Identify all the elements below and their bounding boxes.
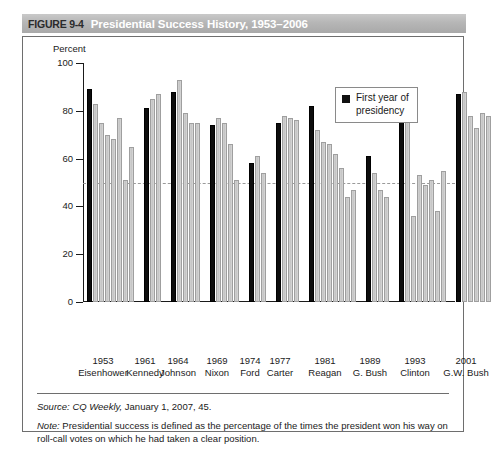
- bar: [156, 94, 161, 302]
- bar: [378, 190, 383, 302]
- y-axis-tick: [76, 254, 83, 255]
- bar-first-year: [249, 163, 254, 302]
- bar: [474, 128, 479, 302]
- note-text: Presidential success is defined as the p…: [37, 420, 448, 444]
- bar: [189, 123, 194, 302]
- source-line: Source: CQ Weekly, January 1, 2007, 45.: [37, 400, 451, 413]
- bar: [129, 147, 134, 302]
- bar: [441, 171, 446, 302]
- bar: [321, 142, 326, 302]
- bar-first-year: [456, 94, 461, 302]
- x-axis-labels: 1953Eisenhower1961Kennedy1964Johnson1969…: [31, 355, 457, 387]
- y-axis-tick-label: 20: [33, 249, 73, 259]
- bar: [405, 96, 410, 302]
- bar: [294, 120, 299, 302]
- bar: [222, 123, 227, 302]
- y-axis-title: Percent: [53, 43, 86, 54]
- figure-container: FIGURE 9-4 Presidential Success History,…: [22, 14, 466, 434]
- bar: [183, 113, 188, 302]
- figure-panel: Percent 020406080100 First year of presi…: [22, 36, 464, 432]
- bar: [384, 197, 389, 302]
- x-axis-group-label: 2001G.W. Bush: [426, 355, 491, 379]
- y-axis-tick: [76, 206, 83, 207]
- y-axis-tick: [76, 302, 83, 303]
- y-axis-tick-label: 80: [33, 106, 73, 116]
- source-publication: CQ Weekly,: [72, 401, 122, 412]
- bar: [228, 144, 233, 302]
- footer-divider: [37, 393, 449, 394]
- figure-title: Presidential Success History, 1953–2006: [91, 18, 308, 30]
- figure-number: FIGURE 9-4: [28, 18, 84, 30]
- bar: [315, 130, 320, 302]
- x-axis-president: G.W. Bush: [426, 367, 491, 379]
- bar: [216, 118, 221, 302]
- figure-header-band: FIGURE 9-4 Presidential Success History,…: [22, 14, 466, 33]
- bar: [282, 116, 287, 302]
- bar: [411, 216, 416, 302]
- bar: [99, 123, 104, 302]
- bar-first-year: [366, 156, 371, 302]
- x-axis-year: 2001: [426, 355, 491, 367]
- bar: [423, 185, 428, 302]
- bar-group: [249, 63, 267, 302]
- bar: [234, 180, 239, 302]
- bar: [417, 175, 422, 302]
- bar: [345, 197, 350, 302]
- bar-first-year: [276, 123, 281, 302]
- note-line: Note: Presidential success is defined as…: [37, 419, 451, 445]
- bar: [327, 144, 332, 302]
- bar-group: [144, 63, 162, 302]
- y-axis-tick-label: 60: [33, 154, 73, 164]
- source-details: January 1, 2007, 45.: [122, 401, 211, 412]
- bar: [372, 173, 377, 302]
- chart-legend: First year of presidency: [335, 87, 418, 123]
- note-label: Note:: [37, 420, 60, 431]
- bar: [288, 118, 293, 302]
- y-axis-tick-label: 40: [33, 201, 73, 211]
- bar: [333, 154, 338, 302]
- bar-first-year: [87, 89, 92, 302]
- bar: [117, 118, 122, 302]
- y-axis-tick-label: 100: [33, 58, 73, 68]
- bar-group: [210, 63, 240, 302]
- bar: [123, 180, 128, 302]
- bar-group: [171, 63, 201, 302]
- source-label: Source:: [37, 401, 70, 412]
- chart-plot-area: Percent 020406080100 First year of presi…: [31, 43, 457, 353]
- bar: [111, 139, 116, 302]
- bar: [105, 135, 110, 302]
- y-axis-tick-label: 0: [33, 297, 73, 307]
- bar: [435, 211, 440, 302]
- bar: [480, 113, 485, 302]
- bar-first-year: [399, 96, 404, 302]
- bar: [150, 99, 155, 302]
- bar-first-year: [309, 106, 314, 302]
- bar-group: [456, 63, 491, 302]
- legend-swatch-first-year: [342, 95, 350, 103]
- bar-group: [87, 63, 135, 302]
- bar: [93, 104, 98, 302]
- bar-first-year: [210, 125, 215, 302]
- bar: [195, 123, 200, 302]
- bar: [486, 116, 491, 302]
- bar: [177, 80, 182, 302]
- y-axis-tick: [76, 111, 83, 112]
- bar: [429, 180, 434, 302]
- y-axis-tick: [76, 63, 83, 64]
- y-axis-tick: [76, 159, 83, 160]
- bar: [339, 168, 344, 302]
- bar-first-year: [144, 108, 149, 302]
- bar-first-year: [171, 92, 176, 302]
- bar: [351, 190, 356, 302]
- bar-group: [276, 63, 300, 302]
- legend-label-first-year: First year of presidency: [356, 92, 409, 117]
- figure-footer: Source: CQ Weekly, January 1, 2007, 45. …: [37, 400, 451, 445]
- bar: [468, 116, 473, 302]
- bar: [462, 92, 467, 302]
- bar: [255, 156, 260, 302]
- bar: [261, 173, 266, 302]
